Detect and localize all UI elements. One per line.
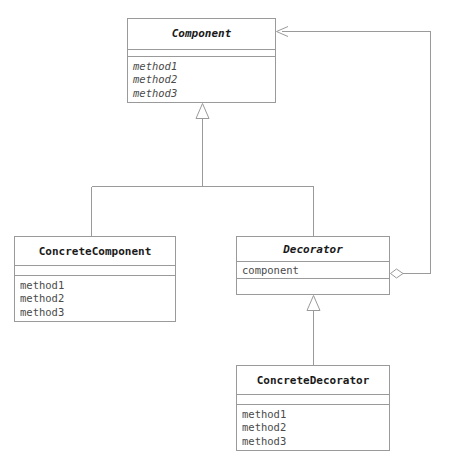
attribute-row: component [242,264,384,277]
class-operations-concrete-component: method1 method2 method3 [15,276,175,322]
generalization-arrowhead-decorator [307,296,320,311]
generalization-arrowhead-component [196,104,209,119]
operation-row: method1 [242,408,384,422]
class-title-concrete-component: ConcreteComponent [15,237,175,266]
uml-class-component[interactable]: Component method1 method2 method3 [127,18,276,103]
uml-diagram-canvas: Component (routed right and up) --> Comp… [0,0,449,458]
operation-row: method3 [133,87,270,101]
operation-row: method1 [20,279,170,293]
operation-row: method2 [20,292,170,306]
generalization-edge-component-fork [92,118,314,237]
class-title-decorator: Decorator [237,237,389,262]
aggregation-diamond-decorator [391,269,404,278]
operation-row: method2 [133,73,270,87]
class-attributes-concrete-component [15,266,175,275]
class-attributes-decorator: component [237,262,389,279]
uml-class-concrete-component[interactable]: ConcreteComponent method1 method2 method… [14,236,176,322]
aggregation-arrowhead-component [277,27,289,37]
class-attributes-component [128,50,275,57]
class-operations-concrete-decorator: method1 method2 method3 [237,405,389,451]
class-title-concrete-decorator: ConcreteDecorator [237,366,389,395]
uml-class-concrete-decorator[interactable]: ConcreteDecorator method1 method2 method… [236,365,390,451]
operation-row: method2 [242,421,384,435]
class-attributes-concrete-decorator [237,395,389,404]
operation-row: method3 [242,435,384,449]
operation-row: method1 [133,60,270,74]
class-operations-component: method1 method2 method3 [128,57,275,103]
class-title-component: Component [128,19,275,50]
operation-row: method3 [20,306,170,320]
uml-class-decorator[interactable]: Decorator component [236,236,390,295]
class-operations-decorator [237,279,389,294]
